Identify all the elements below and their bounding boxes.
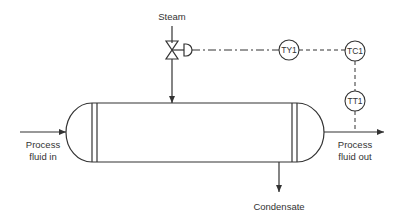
pid-diagram: Process fluid in Process fluid out Steam… xyxy=(0,0,398,216)
process-in-label-2: fluid in xyxy=(29,151,56,162)
tc1-tag: TC1 xyxy=(347,46,363,56)
process-out-label: Process xyxy=(338,139,373,150)
condensate-label: Condensate xyxy=(253,201,304,212)
instrument-tt1: TT1 xyxy=(345,91,365,111)
process-in-label: Process xyxy=(26,139,61,150)
steam-label: Steam xyxy=(158,11,186,22)
tt1-tag: TT1 xyxy=(347,96,362,106)
instrument-tc1: TC1 xyxy=(345,41,365,61)
ty1-tag: TY1 xyxy=(281,45,297,55)
heat-exchanger-vessel xyxy=(66,103,324,162)
process-out-label-2: fluid out xyxy=(338,151,372,162)
control-valve-icon xyxy=(166,41,192,59)
instrument-ty1: TY1 xyxy=(279,40,299,60)
